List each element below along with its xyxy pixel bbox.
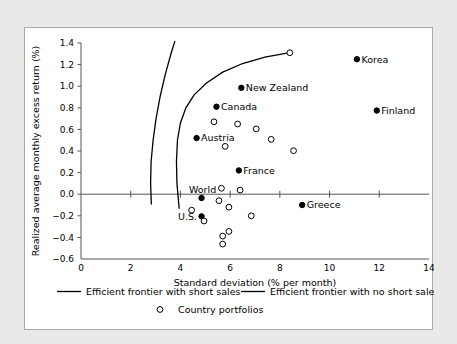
y-tick-label: 1.2 bbox=[60, 60, 74, 70]
country-portfolio-point bbox=[219, 185, 225, 191]
figure-panel: −0.6−0.4−0.20.00.20.40.60.81.01.21.40246… bbox=[24, 27, 433, 330]
country-portfolio-point bbox=[248, 213, 254, 219]
point-label: Korea bbox=[361, 54, 388, 65]
labeled-country-point bbox=[354, 57, 359, 62]
country-portfolio-point bbox=[220, 241, 226, 247]
point-label: France bbox=[243, 165, 275, 176]
y-tick-label: −0.2 bbox=[52, 211, 74, 221]
point-label: Greece bbox=[307, 199, 341, 210]
country-portfolio-point bbox=[268, 136, 274, 142]
country-portfolio-point bbox=[226, 229, 232, 235]
legend-open-circle-swatch bbox=[157, 307, 163, 313]
country-portfolio-point bbox=[201, 218, 207, 224]
point-label: U.S. bbox=[178, 211, 197, 222]
y-tick-label: 0.4 bbox=[60, 146, 75, 156]
y-tick-label: 0.2 bbox=[60, 168, 74, 178]
legend-label-no-short-sales: Efficient frontier with no short sales bbox=[270, 286, 434, 297]
labeled-country-point bbox=[236, 168, 241, 173]
efficient-frontier-curves bbox=[151, 41, 290, 209]
point-label: Canada bbox=[221, 101, 257, 112]
y-tick-label: −0.6 bbox=[52, 254, 74, 264]
chart-legend: Efficient frontier with short salesEffic… bbox=[57, 286, 434, 315]
point-label: World bbox=[189, 184, 216, 195]
legend-label-short-sales: Efficient frontier with short sales bbox=[86, 286, 241, 297]
country-portfolio-point bbox=[222, 143, 228, 149]
labeled-country-point bbox=[374, 108, 379, 113]
country-portfolio-point bbox=[220, 233, 226, 239]
x-tick-label: 0 bbox=[78, 263, 84, 273]
x-tick-label: 8 bbox=[277, 263, 283, 273]
point-label: Austria bbox=[201, 132, 235, 143]
labeled-country-point bbox=[300, 202, 305, 207]
country-portfolio-point bbox=[287, 50, 293, 56]
labeled-country-point bbox=[194, 135, 199, 140]
x-tick-label: 12 bbox=[374, 263, 385, 273]
y-tick-label: 0.8 bbox=[60, 103, 75, 113]
country-portfolio-point bbox=[253, 126, 259, 132]
labeled-country-point bbox=[239, 85, 244, 90]
point-label: New Zealand bbox=[246, 82, 308, 93]
country-portfolio-point bbox=[226, 204, 232, 210]
scatter-chart: −0.6−0.4−0.20.00.20.40.60.81.01.21.40246… bbox=[25, 28, 434, 331]
x-tick-label: 6 bbox=[227, 263, 233, 273]
labeled-country-point bbox=[214, 104, 219, 109]
y-axis-title: Realized average monthly excess return (… bbox=[30, 46, 41, 257]
country-portfolio-point bbox=[211, 119, 217, 125]
frontier-curve bbox=[151, 41, 175, 205]
country-portfolio-point bbox=[216, 198, 222, 204]
y-tick-label: 1.0 bbox=[60, 81, 75, 91]
country-portfolio-point bbox=[291, 148, 297, 154]
y-tick-label: 0.6 bbox=[60, 125, 75, 135]
y-tick-label: −0.4 bbox=[52, 233, 74, 243]
x-tick-label: 10 bbox=[324, 263, 336, 273]
y-tick-label: 1.4 bbox=[60, 38, 75, 48]
country-portfolio-point bbox=[237, 187, 243, 193]
x-tick-label: 2 bbox=[128, 263, 134, 273]
y-tick-label: 0.0 bbox=[60, 189, 75, 199]
legend-label-country-portfolios: Country portfolios bbox=[178, 304, 263, 315]
x-tick-label: 4 bbox=[178, 263, 184, 273]
country-portfolio-point bbox=[235, 121, 241, 127]
axes-layer: −0.6−0.4−0.20.00.20.40.60.81.01.21.40246… bbox=[52, 38, 434, 273]
labeled-country-point bbox=[199, 195, 204, 200]
data-points-layer bbox=[189, 50, 380, 247]
x-tick-label: 14 bbox=[423, 263, 434, 273]
point-label: Finland bbox=[381, 105, 415, 116]
